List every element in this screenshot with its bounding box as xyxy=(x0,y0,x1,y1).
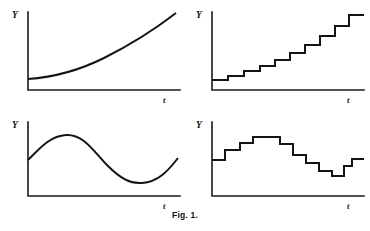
y-axis-label-bottom-left: Y xyxy=(12,120,19,130)
panel-top-right: Y t xyxy=(192,4,370,108)
y-axis-label-top-right: Y xyxy=(196,10,203,20)
y-axis-label-bottom-right: Y xyxy=(196,120,203,130)
y-axis-label-top-left: Y xyxy=(12,10,19,20)
panel-bottom-left-plot: Y t xyxy=(8,114,186,214)
figure-caption: Fig. 1. xyxy=(0,210,370,220)
panel-bottom-right-plot: Y t xyxy=(192,114,370,214)
panel-top-left-plot: Y t xyxy=(8,4,186,108)
axes-top-left xyxy=(28,12,180,90)
increasing-staircase-step xyxy=(212,15,364,80)
panel-bottom-right: Y t xyxy=(192,114,370,214)
sine-wave-curve xyxy=(28,135,178,183)
panel-top-left: Y t xyxy=(8,4,186,108)
exponential-growth-curve xyxy=(28,13,176,79)
axes-bottom-right xyxy=(212,122,364,196)
figure-container: Y t Y t Y t Y t Fig. 1. xyxy=(0,0,370,231)
axes-bottom-left xyxy=(28,122,180,196)
x-axis-label-top-left: t xyxy=(163,95,166,105)
panel-bottom-left: Y t xyxy=(8,114,186,214)
axes-top-right xyxy=(212,12,364,90)
irregular-step-function xyxy=(212,137,364,176)
x-axis-label-top-right: t xyxy=(347,95,350,105)
panel-top-right-plot: Y t xyxy=(192,4,370,108)
